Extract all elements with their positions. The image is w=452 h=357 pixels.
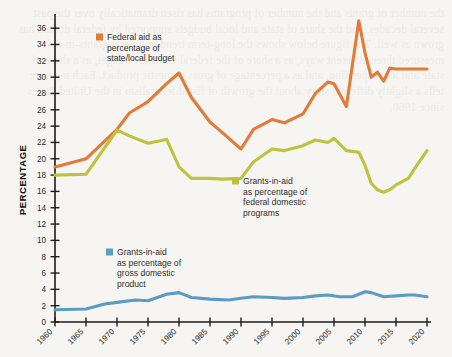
x-axis-tick-label: 1985 [190, 327, 210, 347]
y-axis-tick-label: 2 [41, 302, 46, 311]
legend-label-federal-aid: state/local budget [107, 53, 175, 63]
x-axis-tick-label: 1965 [66, 327, 86, 347]
x-axis-tick-label: 1970 [97, 327, 117, 347]
chart-legends: Federal aid aspercentage ofstate/local b… [96, 32, 308, 289]
y-axis-tick-label: 34 [37, 40, 47, 49]
y-axis-tick-label: 16 [37, 187, 47, 196]
x-axis-tick-label: 2010 [345, 327, 365, 347]
y-axis-tick-label: 4 [41, 285, 46, 294]
legend-label-federal-domestic: Grants-in-aid [243, 176, 293, 186]
x-axis-tick-label: 1990 [221, 327, 241, 347]
legend-label-federal-domestic: federal domestic [243, 197, 307, 207]
y-axis-tick-label: 8 [41, 253, 46, 262]
y-axis-tick-label: 14 [37, 204, 47, 213]
legend-swatch-federal-domestic [232, 178, 239, 185]
legend-label-gdp: Grants-in-aid [117, 247, 167, 257]
x-axis-tick-label: 2015 [376, 327, 396, 347]
legend-label-gdp: gross domestic [117, 268, 175, 278]
y-axis-tick-label: 6 [41, 269, 46, 278]
x-axis-tick-label: 1960 [35, 327, 55, 347]
y-axis-tick-label: 20 [37, 155, 47, 164]
y-axis-tick-label: 26 [37, 106, 47, 115]
chart-plot-area [55, 21, 427, 310]
y-axis-tick-label: 0 [41, 318, 46, 327]
legend-label-federal-domestic: as percentage of [243, 187, 308, 197]
x-axis-tick-label: 2005 [314, 327, 334, 347]
y-axis-tick-label: 10 [37, 236, 47, 245]
legend-label-federal-aid: Federal aid as [107, 32, 161, 42]
legend-label-gdp: product [117, 279, 146, 289]
y-axis-tick-label: 24 [37, 122, 47, 131]
chart-container: the number of grants and the number of p… [0, 0, 452, 357]
x-axis-tick-label: 1975 [128, 327, 148, 347]
y-axis-tick-label: 18 [37, 171, 47, 180]
legend-swatch-federal-aid [96, 34, 103, 41]
series-line-1 [55, 130, 427, 192]
y-axis-tick-label: 32 [37, 57, 47, 66]
legend-label-gdp: as percentage of [117, 258, 182, 268]
legend-swatch-gdp [106, 249, 113, 256]
y-axis-title: PERCENTAGE [17, 145, 28, 215]
y-axis-tick-label: 30 [37, 73, 47, 82]
y-axis-tick-label: 12 [37, 220, 47, 229]
x-axis-tick-label: 2000 [283, 327, 303, 347]
y-axis-tick-label: 22 [37, 138, 47, 147]
x-axis-tick-label: 1980 [159, 327, 179, 347]
x-axis-tick-label: 2020 [407, 327, 427, 347]
series-line-2 [55, 292, 427, 310]
legend-label-federal-domestic: programs [243, 208, 279, 218]
y-axis-tick-label: 28 [37, 89, 47, 98]
y-axis-tick-label: 36 [37, 24, 47, 33]
x-axis-tick-label: 1995 [252, 327, 272, 347]
line-chart-svg: 0246810121416182022242628303234361960196… [0, 0, 452, 357]
legend-label-federal-aid: percentage of [107, 43, 160, 53]
